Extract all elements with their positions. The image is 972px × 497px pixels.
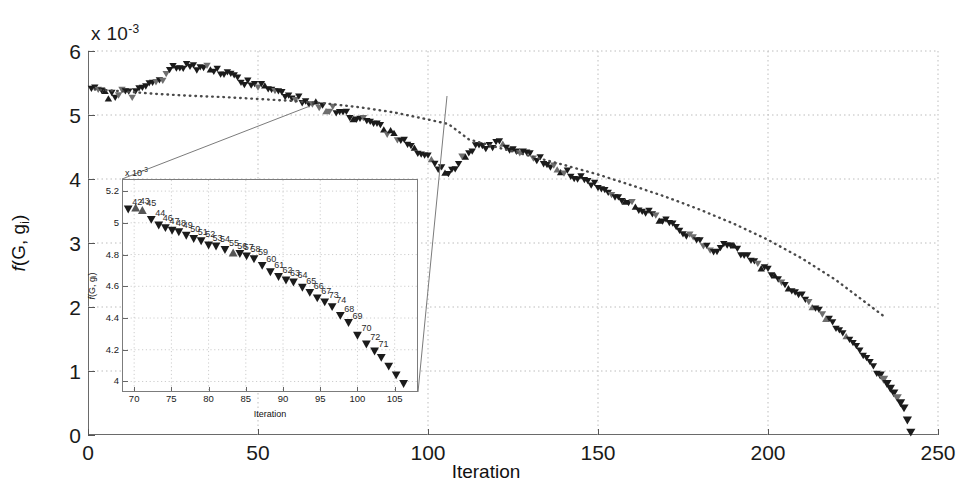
inset-data-markers — [123, 180, 417, 391]
inset-y-tick-label: 4.8 — [106, 250, 119, 260]
x-tick-label: 250 — [920, 442, 955, 463]
inset-y-tick-label: 5.2 — [106, 186, 119, 196]
inset-x-tick-label: 85 — [241, 394, 252, 404]
inset-y-axis-title: f(G, gi) — [87, 273, 98, 300]
inset-y-tick-label: 4.4 — [106, 313, 119, 323]
inset-x-axis-title: Iteration — [123, 409, 417, 419]
y-tick — [88, 51, 95, 52]
y-tick-label: 5 — [69, 105, 81, 126]
y-tick — [88, 307, 95, 308]
x-tick — [88, 429, 89, 435]
inset-x-tick-label: 90 — [278, 394, 289, 404]
inset-y-tick-label: 5 — [114, 218, 119, 228]
inset-point-label: 69 — [353, 311, 363, 321]
inset-x-tick-label: 75 — [166, 394, 177, 404]
y-axis-title: f(G, gi) — [8, 215, 31, 272]
x-tick — [938, 429, 939, 435]
inset-x-tick-label: 70 — [129, 394, 140, 404]
inset-x-tick — [283, 387, 284, 391]
inset-x-tick-label: 105 — [387, 394, 403, 404]
y-axis-multiplier-exponent: -3 — [128, 22, 139, 36]
x-tick — [768, 429, 769, 435]
x-tick — [598, 429, 599, 435]
x-axis-title: Iteration — [0, 461, 972, 483]
y-tick — [88, 115, 95, 116]
inset-y-tick-label: 4 — [114, 377, 119, 387]
figure-root: x 10-3 0123456050100150200250 x 10-3 44.… — [0, 0, 972, 497]
inset-y-multiplier-base: x 10 — [125, 168, 142, 178]
inset-x-tick — [320, 387, 321, 391]
inset-x-tick — [209, 387, 210, 391]
inset-y-tick — [123, 350, 128, 351]
inset-x-tick-label: 95 — [315, 394, 326, 404]
y-tick-label: 6 — [69, 41, 81, 62]
y-tick — [88, 435, 95, 436]
inset-x-tick — [171, 387, 172, 391]
y-axis-multiplier-base: x 10 — [91, 23, 128, 44]
x-tick-label: 150 — [580, 442, 615, 463]
inset-x-tick-label: 80 — [203, 394, 214, 404]
x-tick-label: 100 — [410, 442, 445, 463]
x-tick-label: 50 — [246, 442, 269, 463]
x-tick — [428, 429, 429, 435]
inset-x-tick — [357, 387, 358, 391]
inset-y-tick — [123, 255, 128, 256]
x-tick-label: 200 — [750, 442, 785, 463]
inset-y-tick — [123, 286, 128, 287]
x-tick — [258, 429, 259, 435]
inset-y-tick — [123, 223, 128, 224]
inset-y-tick — [123, 191, 128, 192]
inset-y-axis-multiplier: x 10-3 — [125, 166, 148, 178]
inset-y-tick-label: 4.2 — [106, 345, 119, 355]
inset-x-tick — [246, 387, 247, 391]
inset-point-label: 71 — [379, 339, 389, 349]
inset-x-tick-label: 100 — [350, 394, 366, 404]
x-tick-label: 0 — [82, 442, 94, 463]
y-tick — [88, 371, 95, 372]
inset-plot: x 10-3 44.24.44.64.855.27075808590951001… — [122, 179, 418, 392]
y-tick-label: 1 — [69, 361, 81, 382]
inset-x-tick — [395, 387, 396, 391]
y-tick-label: 0 — [69, 425, 81, 446]
y-tick — [88, 179, 95, 180]
inset-y-tick — [123, 318, 128, 319]
y-tick-label: 2 — [69, 297, 81, 318]
y-axis-multiplier: x 10-3 — [91, 22, 139, 45]
y-tick-label: 4 — [69, 169, 81, 190]
y-tick-label: 3 — [69, 233, 81, 254]
inset-x-tick — [134, 387, 135, 391]
inset-y-tick — [123, 381, 128, 382]
inset-y-tick-label: 4.6 — [106, 282, 119, 292]
inset-point-label: 45 — [146, 198, 156, 208]
y-tick — [88, 243, 95, 244]
inset-y-multiplier-exponent: -3 — [142, 166, 148, 173]
